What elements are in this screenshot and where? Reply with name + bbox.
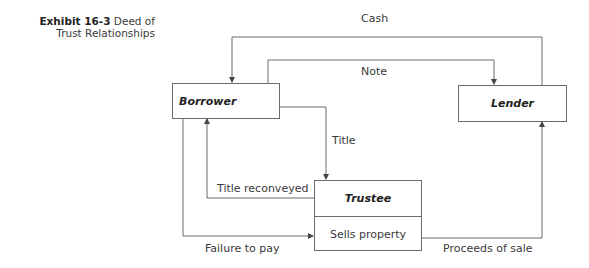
proceeds-of-sale-label: Proceeds of sale [443,242,533,255]
borrower-node: Borrower [172,83,280,119]
trustee-label: Trustee [315,181,421,217]
trustee-action-label: Sells property [315,217,421,251]
lender-node: Lender [458,85,567,122]
title-label: Title [332,134,356,147]
connector-lines [0,0,589,268]
title-arrow [279,107,326,179]
trustee-node: Trustee Sells property [314,180,422,251]
proceeds-arrow [421,122,542,238]
borrower-label: Borrower [179,95,236,108]
cash-label: Cash [361,12,388,25]
failure-to-pay-label: Failure to pay [205,242,279,255]
title-reconveyed-label: Title reconveyed [217,182,308,195]
failure-to-pay-arrow [183,118,313,236]
note-label: Note [361,65,387,78]
lender-label: Lender [491,97,534,110]
